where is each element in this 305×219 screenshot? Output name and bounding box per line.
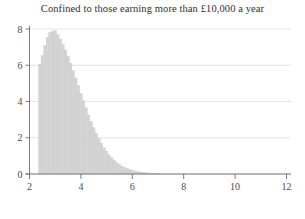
histogram-bar (59, 39, 62, 174)
histogram-bars-group (38, 31, 159, 174)
histogram-bar (100, 143, 103, 174)
x-tick-label: 12 (282, 181, 292, 192)
histogram-bar (95, 133, 98, 174)
histogram-bar (54, 31, 57, 174)
histogram-bar (116, 163, 119, 174)
histogram-bar (64, 50, 67, 174)
histogram-bar (41, 55, 44, 174)
histogram-bar (123, 167, 126, 174)
histogram-bar (38, 64, 41, 174)
chart-figure: Confined to those earning more than £10,… (0, 0, 305, 219)
histogram-bar (113, 160, 116, 174)
histogram-bar (49, 33, 52, 174)
histogram-bar (108, 155, 111, 174)
histogram-bar (134, 171, 137, 174)
x-tick-label: 10 (230, 181, 240, 192)
histogram-bar (128, 169, 131, 174)
histogram-bar (62, 44, 65, 174)
histogram-bar (82, 101, 85, 174)
y-tick-label: 0 (18, 169, 23, 180)
y-tick-label: 8 (18, 24, 23, 35)
x-tick-label: 6 (130, 181, 135, 192)
histogram-bar (131, 170, 134, 174)
histogram-bar (69, 63, 72, 174)
histogram-bar (126, 169, 129, 174)
histogram-bar (72, 71, 75, 174)
histogram-bar (103, 148, 106, 174)
x-tick-label: 8 (181, 181, 186, 192)
y-tick-label: 6 (18, 60, 23, 71)
histogram-bar (105, 151, 108, 174)
histogram-bar (77, 85, 80, 174)
histogram-bar (74, 78, 77, 174)
y-axis-tick-labels: 02468 (18, 24, 23, 180)
x-tick-label: 4 (78, 181, 83, 192)
x-axis-tick-labels: 24681012 (27, 181, 292, 192)
histogram-bar (80, 93, 83, 174)
histogram-bar (51, 31, 54, 174)
y-tick-label: 2 (18, 132, 23, 143)
histogram-bar (92, 128, 95, 174)
y-tick-label: 4 (18, 96, 23, 107)
histogram-bar (56, 34, 59, 174)
histogram-bar (44, 45, 47, 174)
histogram-bar (85, 108, 88, 174)
histogram-bar (98, 139, 101, 174)
histogram-bar (87, 115, 90, 174)
histogram-bar (46, 37, 49, 174)
x-tick-label: 2 (27, 181, 32, 192)
histogram-bar (110, 158, 113, 174)
histogram-bar (67, 56, 70, 174)
histogram-bar (90, 121, 93, 174)
histogram-bar (121, 166, 124, 174)
histogram-bar (118, 165, 121, 174)
histogram-plot: 02468 24681012 (0, 0, 305, 219)
